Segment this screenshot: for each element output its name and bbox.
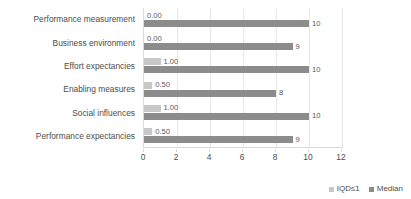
category-axis: Performance measurement Business environ… bbox=[0, 8, 139, 148]
bar-iqd bbox=[144, 82, 152, 89]
bar-group: 0.50 9 bbox=[144, 124, 342, 147]
bar-rows: 0.00 10 0.00 9 1 bbox=[144, 8, 342, 147]
category-axis-label: Business environment bbox=[0, 31, 139, 54]
legend-swatch-icon bbox=[329, 187, 334, 192]
bar-median-wrap: 8 bbox=[144, 90, 342, 97]
category-axis-label: Effort expectancies bbox=[0, 55, 139, 78]
bar-median bbox=[144, 66, 309, 73]
bar-median bbox=[144, 90, 276, 97]
legend-label: Median bbox=[377, 185, 403, 193]
bar-iqd-value: 0.50 bbox=[155, 128, 170, 136]
legend: IQD≤1 Median bbox=[329, 185, 403, 193]
category-axis-label: Performance expectancies bbox=[0, 125, 139, 148]
axis-tick-label: 2 bbox=[174, 153, 179, 161]
axis-tick-label: 12 bbox=[336, 153, 345, 161]
category-axis-label: Performance measurement bbox=[0, 8, 139, 31]
axis-tick-label: 6 bbox=[240, 153, 245, 161]
axis-tick-label: 10 bbox=[303, 153, 312, 161]
bar-iqd bbox=[144, 105, 161, 112]
bar-group: 0.00 9 bbox=[144, 31, 342, 54]
bar-iqd-value: 0.50 bbox=[155, 81, 170, 89]
axis-tick-label: 8 bbox=[273, 153, 278, 161]
legend-swatch-icon bbox=[369, 187, 374, 192]
bar-iqd-value: 0.00 bbox=[147, 35, 162, 43]
bar-chart: Performance measurement Business environ… bbox=[0, 0, 411, 199]
axis-tick-label: 4 bbox=[207, 153, 212, 161]
legend-item-iqd: IQD≤1 bbox=[329, 185, 360, 193]
bar-iqd-value: 0.00 bbox=[147, 12, 162, 20]
bar-median bbox=[144, 43, 293, 50]
bar-group: 0.50 8 bbox=[144, 78, 342, 101]
bar-iqd-value: 1.00 bbox=[164, 58, 179, 66]
bar-median-value: 10 bbox=[312, 20, 320, 28]
bar-iqd-wrap: 0.50 bbox=[144, 82, 342, 89]
bar-iqd-value: 1.00 bbox=[164, 104, 179, 112]
bar-median-wrap: 10 bbox=[144, 113, 342, 120]
bar-iqd-wrap: 0.50 bbox=[144, 128, 342, 135]
bar-group: 0.00 10 bbox=[144, 8, 342, 31]
bar-iqd-wrap: 0.00 bbox=[144, 35, 342, 42]
category-axis-label: Enabling measures bbox=[0, 78, 139, 101]
bar-median-wrap: 10 bbox=[144, 20, 342, 27]
bar-iqd bbox=[144, 58, 161, 65]
bar-median-value: 10 bbox=[312, 66, 320, 74]
bar-median-value: 8 bbox=[279, 89, 283, 97]
bar-median-wrap: 9 bbox=[144, 43, 342, 50]
bar-median-value: 9 bbox=[296, 43, 300, 51]
plot-area: 0.00 10 0.00 9 1 bbox=[143, 8, 343, 148]
bar-iqd bbox=[144, 128, 152, 135]
gridline bbox=[342, 8, 343, 147]
bar-median bbox=[144, 136, 293, 143]
bar-median-wrap: 10 bbox=[144, 66, 342, 73]
category-axis-label: Social influences bbox=[0, 101, 139, 124]
axis-tick-label: 0 bbox=[141, 153, 146, 161]
legend-label: IQD≤1 bbox=[337, 185, 360, 193]
value-axis: 024681012 bbox=[143, 149, 343, 165]
bar-median-wrap: 9 bbox=[144, 136, 342, 143]
bar-group: 1.00 10 bbox=[144, 54, 342, 77]
bar-median-value: 9 bbox=[296, 136, 300, 144]
bar-median bbox=[144, 113, 309, 120]
bar-median bbox=[144, 20, 309, 27]
bar-group: 1.00 10 bbox=[144, 101, 342, 124]
legend-item-median: Median bbox=[369, 185, 403, 193]
bar-median-value: 10 bbox=[312, 112, 320, 120]
